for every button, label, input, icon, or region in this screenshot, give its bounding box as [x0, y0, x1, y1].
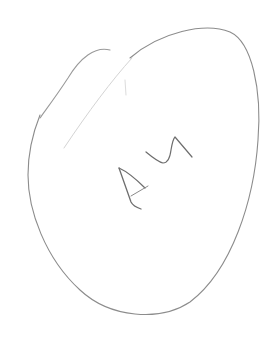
upper-left-arc — [40, 49, 110, 118]
oval-outline — [28, 28, 259, 314]
sketch-canvas: A4 — [0, 0, 278, 341]
faint-tick-mark — [125, 80, 126, 95]
pencil-sketch — [0, 0, 278, 341]
faint-diagonal-line — [64, 58, 132, 148]
letter-a — [119, 168, 148, 209]
digit-4 — [146, 137, 192, 163]
